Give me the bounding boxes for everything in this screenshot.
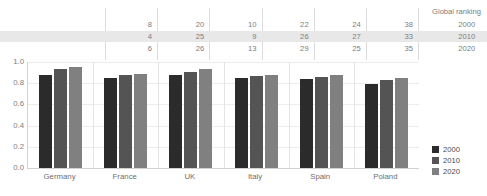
rank-cell: 20 bbox=[157, 19, 209, 30]
legend-label: 2000 bbox=[443, 146, 460, 154]
bar-france-2000 bbox=[104, 78, 117, 168]
bar-spain-2010 bbox=[315, 77, 328, 168]
y-tick-label: 0.8 bbox=[2, 79, 24, 87]
global-ranking-title: Global ranking bbox=[432, 7, 481, 17]
legend-swatch-icon bbox=[432, 157, 439, 164]
y-tick-label: 0.4 bbox=[2, 122, 24, 130]
y-tick-label: 0.2 bbox=[2, 143, 24, 151]
bar-france-2010 bbox=[119, 75, 132, 168]
bar-poland-2010 bbox=[380, 80, 393, 168]
legend-item-2020[interactable]: 2020 bbox=[432, 166, 460, 177]
group-separator bbox=[354, 62, 355, 168]
y-tick-label: 0.6 bbox=[2, 100, 24, 108]
bar-italy-2010 bbox=[250, 76, 263, 168]
rank-cell: 33 bbox=[366, 31, 418, 42]
rank-cell: 4 bbox=[105, 31, 157, 42]
bar-spain-2000 bbox=[300, 79, 313, 168]
legend-item-2000[interactable]: 2000 bbox=[432, 144, 460, 155]
bar-italy-2020 bbox=[265, 75, 278, 168]
bar-italy-2000 bbox=[235, 78, 248, 168]
legend-swatch-icon bbox=[432, 146, 439, 153]
plot-area bbox=[27, 62, 419, 169]
rank-cell: 6 bbox=[105, 43, 157, 54]
ranking-row-2020: 6 26 13 29 25 35 2020 bbox=[0, 43, 487, 54]
rank-cell: 26 bbox=[262, 31, 314, 42]
group-separator bbox=[158, 62, 159, 168]
bar-uk-2000 bbox=[169, 75, 182, 168]
ranking-row-2000: 8 20 10 22 24 38 2000 bbox=[0, 19, 487, 30]
rank-cell: 29 bbox=[262, 43, 314, 54]
y-tick-label: 0.0 bbox=[2, 164, 24, 172]
legend-swatch-icon bbox=[432, 168, 439, 175]
group-separator bbox=[224, 62, 225, 168]
rank-cell: 13 bbox=[209, 43, 261, 54]
bar-uk-2010 bbox=[184, 72, 197, 168]
rank-cell: 35 bbox=[366, 43, 418, 54]
rank-cell: 9 bbox=[209, 31, 261, 42]
bar-germany-2020 bbox=[69, 67, 82, 168]
rank-cell: 38 bbox=[366, 19, 418, 30]
y-tick-label: 1.0 bbox=[2, 58, 24, 66]
bar-poland-2000 bbox=[365, 84, 378, 168]
rank-cell: 25 bbox=[157, 31, 209, 42]
rank-cell: 10 bbox=[209, 19, 261, 30]
bar-poland-2020 bbox=[395, 78, 408, 168]
ranking-row-2010: 4 25 9 26 27 33 2010 bbox=[0, 31, 487, 42]
bar-germany-2000 bbox=[39, 75, 52, 168]
rank-cell: 8 bbox=[105, 19, 157, 30]
legend-item-2010[interactable]: 2010 bbox=[432, 155, 460, 166]
ranking-row-year: 2000 bbox=[418, 19, 481, 30]
rank-cell: 26 bbox=[157, 43, 209, 54]
rank-cell: 24 bbox=[314, 19, 366, 30]
x-category-label: Germany bbox=[27, 172, 92, 181]
bar-france-2020 bbox=[134, 74, 147, 168]
chart-figure: Global ranking 8 20 10 22 24 38 2000 4 2… bbox=[0, 0, 487, 196]
legend-label: 2010 bbox=[443, 157, 460, 165]
bar-germany-2010 bbox=[54, 69, 67, 168]
ranking-row-year: 2020 bbox=[418, 43, 481, 54]
x-category-label: Spain bbox=[288, 172, 353, 181]
rank-cell: 27 bbox=[314, 31, 366, 42]
group-separator bbox=[93, 62, 94, 168]
legend-label: 2020 bbox=[443, 168, 460, 176]
group-separator bbox=[289, 62, 290, 168]
x-category-label: Italy bbox=[223, 172, 288, 181]
bar-uk-2020 bbox=[199, 69, 212, 168]
x-category-label: UK bbox=[157, 172, 222, 181]
rank-cell: 25 bbox=[314, 43, 366, 54]
global-ranking-table: Global ranking 8 20 10 22 24 38 2000 4 2… bbox=[0, 0, 487, 60]
x-category-label: France bbox=[92, 172, 157, 181]
bar-spain-2020 bbox=[330, 75, 343, 168]
ranking-row-year: 2010 bbox=[418, 31, 481, 42]
rank-cell: 22 bbox=[262, 19, 314, 30]
x-category-label: Poland bbox=[353, 172, 418, 181]
chart-legend: 200020102020 bbox=[432, 144, 460, 177]
